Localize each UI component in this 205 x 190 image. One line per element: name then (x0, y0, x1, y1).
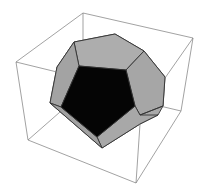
dodecahedron (50, 34, 165, 148)
dodecahedron-plot (0, 0, 205, 190)
figure-canvas (0, 0, 205, 190)
